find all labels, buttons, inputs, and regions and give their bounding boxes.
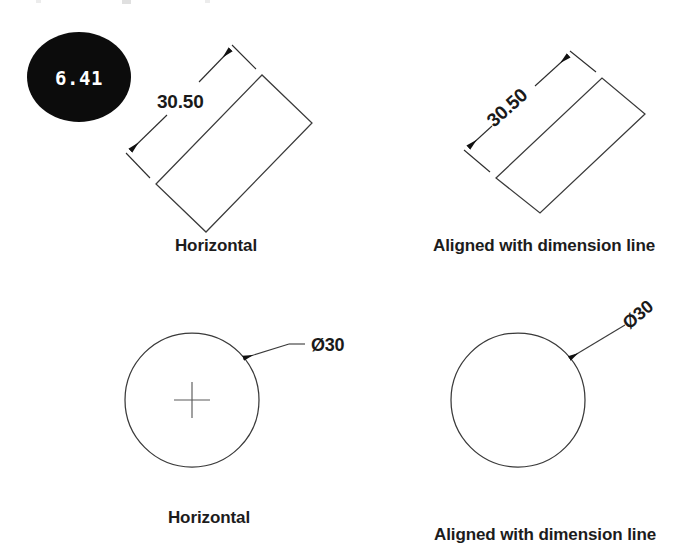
value-badge: 6.41 <box>27 32 131 122</box>
leader-line <box>244 344 289 358</box>
dimension-line-upper-segment <box>535 56 568 86</box>
badge-value: 6.41 <box>55 67 103 89</box>
panel-circle-aligned: Ø30 Aligned with dimension line <box>434 296 657 544</box>
top-cropped-text-remnant <box>36 0 210 4</box>
extension-line-end <box>570 51 596 72</box>
extension-line-end <box>232 45 256 69</box>
dimension-line-lower-segment <box>131 115 167 150</box>
dimension-text-circle-horizontal: Ø30 <box>311 335 345 355</box>
extension-line-start <box>126 153 150 178</box>
technical-drawing: 30.50 Horizontal 30.50 Aligned with dime… <box>0 0 690 555</box>
dimension-line-upper-segment <box>199 50 230 82</box>
caption-circle-aligned: Aligned with dimension line <box>434 525 656 544</box>
panel-rect-horizontal: 30.50 Horizontal <box>126 45 312 255</box>
dimension-line-lower-segment <box>469 126 492 147</box>
figure-canvas: 30.50 Horizontal 30.50 Aligned with dime… <box>0 0 690 555</box>
dimension-text-rect-aligned: 30.50 <box>483 84 532 131</box>
dimension-text-circle-aligned: Ø30 <box>619 296 658 333</box>
dimension-text-rect-horizontal: 30.50 <box>157 91 204 112</box>
leader-line <box>570 325 625 358</box>
panel-circle-horizontal: Ø30 Horizontal <box>125 333 345 527</box>
panel-rect-aligned: 30.50 Aligned with dimension line <box>433 51 655 255</box>
extension-line-start <box>464 150 490 172</box>
caption-rect-aligned: Aligned with dimension line <box>433 236 655 255</box>
caption-rect-horizontal: Horizontal <box>175 236 257 255</box>
circle-outline <box>451 333 585 467</box>
caption-circle-horizontal: Horizontal <box>168 508 250 527</box>
